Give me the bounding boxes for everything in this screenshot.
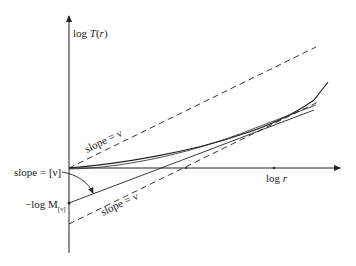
slope-upper-label: slope = ν — [83, 127, 124, 155]
tangent-line — [69, 110, 314, 203]
intercept-label: −log M[ν] — [25, 198, 66, 213]
x-axis-label: log r — [266, 172, 288, 184]
x-axis-tick — [185, 167, 187, 169]
slope-integer-pointer — [62, 172, 93, 193]
x-axis-tick — [273, 167, 275, 169]
curve-log-T — [69, 82, 328, 168]
slope-integer-label: slope = [ν] — [14, 166, 61, 178]
upper-dashed-asymptote — [69, 47, 316, 168]
intercept-point — [68, 202, 71, 205]
diagram-canvas: log T(r) log r slope = ν slope = ν slope… — [0, 0, 356, 266]
slope-lower-label: slope = ν — [99, 190, 140, 218]
y-axis-label: log T(r) — [73, 27, 108, 40]
